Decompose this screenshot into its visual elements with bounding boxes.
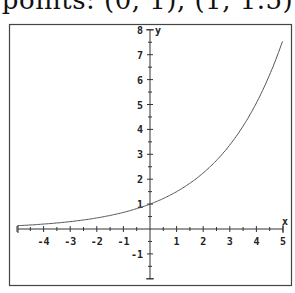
exponential-graph: -4-3-2-112345-112345678 x y [0,0,295,293]
x-axis-label: x [282,216,288,227]
x-tick-label: 3 [227,236,233,247]
y-axis-label: y [155,25,161,36]
x-tick-label: 4 [253,236,259,247]
tick-labels: -4-3-2-112345-112345678 [38,25,286,260]
x-tick-label: -1 [117,236,129,247]
y-tick-label: 3 [137,149,143,160]
x-tick-label: 1 [174,236,180,247]
x-tick-label: -4 [38,236,50,247]
x-tick-label: 2 [200,236,206,247]
axes [17,30,283,279]
y-tick-label: 4 [137,124,143,135]
x-tick-label: -2 [91,236,103,247]
x-tick-label: -3 [64,236,76,247]
y-tick-label: -1 [131,249,143,260]
y-tick-label: 7 [137,50,143,61]
y-tick-label: 5 [137,100,143,111]
x-tick-label: 5 [280,236,286,247]
y-tick-label: 8 [137,25,143,36]
y-tick-label: 6 [137,75,143,86]
y-tick-label: 2 [137,174,143,185]
